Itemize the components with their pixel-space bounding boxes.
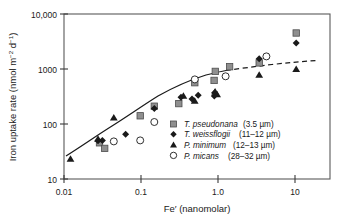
iron-uptake-scatter-chart: 10,000 1000 100 10 0.01 0.1 1.0 10 Fe′ (…	[0, 0, 346, 224]
data-point	[110, 114, 118, 121]
data-point	[102, 145, 108, 151]
legend-label-species-p-minimum: P. minimum	[184, 141, 226, 150]
y-axis-title-mid: d	[7, 43, 18, 51]
data-point	[176, 100, 182, 106]
legend-marker-triangle-icon	[170, 142, 177, 148]
y-axis-title-main: Iron uptake rate (nmol m	[7, 58, 18, 162]
data-point	[122, 131, 129, 138]
legend-item-p-micans[interactable]: P. micans (28–32 µm)	[170, 152, 270, 161]
legend-label-size-t-weissflogii: (11–12 µm)	[239, 130, 281, 139]
data-point	[255, 71, 263, 78]
x-tick-label-0.1: 0.1	[135, 187, 147, 197]
y-tick-label-1000: 1000	[38, 65, 57, 75]
fit-curve-dashed	[226, 61, 316, 71]
legend-label-size-p-micans: (28–32 µm)	[228, 152, 270, 161]
data-point	[263, 53, 270, 60]
data-point	[110, 138, 117, 145]
data-point	[292, 66, 300, 73]
legend-label-species-p-micans: P. micans	[184, 152, 219, 161]
data-point	[293, 30, 299, 36]
legend: T. pseudonana (3.5 µm) T. weissflogii (1…	[170, 120, 281, 161]
data-point	[212, 68, 218, 74]
data-point	[137, 137, 144, 144]
legend-label-species-t-pseudonana: T. pseudonana	[184, 120, 238, 129]
data-point	[293, 40, 300, 47]
data-point	[151, 119, 158, 126]
x-tick-label-0.01: 0.01	[56, 187, 73, 197]
figure-container: 10,000 1000 100 10 0.01 0.1 1.0 10 Fe′ (…	[0, 0, 346, 224]
data-point	[226, 64, 232, 70]
legend-marker-diamond-icon	[170, 131, 176, 138]
data-point	[195, 92, 202, 99]
y-axis-tick-labels: 10,000 1000 100 10	[31, 10, 57, 185]
y-tick-label-100: 100	[43, 120, 57, 130]
legend-marker-circle-icon	[170, 152, 176, 158]
data-point	[191, 76, 198, 83]
y-axis-title-end: )	[7, 33, 18, 36]
x-tick-label-10: 10	[290, 187, 300, 197]
y-tick-label-10: 10	[48, 175, 58, 185]
y-axis-title: Iron uptake rate (nmol m−2 d−1)	[7, 33, 19, 162]
data-point	[222, 73, 229, 80]
legend-item-t-pseudonana[interactable]: T. pseudonana (3.5 µm)	[171, 120, 274, 129]
legend-item-t-weissflogii[interactable]: T. weissflogii (11–12 µm)	[170, 130, 280, 139]
x-axis-title: Fe′ (nanomolar)	[164, 203, 231, 214]
legend-marker-square-icon	[171, 121, 177, 127]
x-axis-tick-labels: 0.01 0.1 1.0 10	[56, 187, 300, 197]
legend-label-size-t-pseudonana: (3.5 µm)	[243, 120, 274, 129]
legend-label-species-t-weissflogii: T. weissflogii	[184, 130, 230, 139]
x-tick-label-1.0: 1.0	[212, 187, 224, 197]
data-point	[137, 113, 143, 119]
legend-label-size-p-minimum: (12–13 µm)	[233, 141, 275, 150]
legend-item-p-minimum[interactable]: P. minimum (12–13 µm)	[170, 141, 275, 150]
y-tick-label-10000: 10,000	[31, 10, 57, 20]
data-point	[211, 77, 217, 83]
data-point	[67, 155, 75, 162]
